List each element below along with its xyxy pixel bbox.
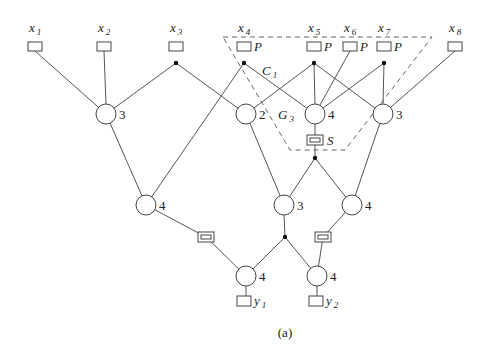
- edge-line: [106, 63, 176, 114]
- input-node-x6: [343, 42, 357, 51]
- input-node-x3: [169, 42, 183, 51]
- input-label-x5: x5: [307, 20, 321, 37]
- edge-line: [315, 63, 384, 114]
- edge-line: [383, 63, 384, 104]
- gate-label-g9: 4: [330, 269, 337, 284]
- gate-label-g6: 3: [297, 198, 304, 213]
- gate-node-g3: [305, 104, 325, 124]
- fanout-dot: [283, 235, 287, 239]
- delay-box-inner-d2: [318, 235, 328, 239]
- input-label-x7: x7: [377, 20, 391, 37]
- input-label-x4: x4: [237, 20, 251, 37]
- gate-name-g3: G3: [278, 107, 294, 124]
- fanout-dot: [242, 61, 246, 65]
- gate-node-g5: [136, 195, 156, 215]
- region-label: C1: [262, 63, 277, 80]
- gate-label-g1: 3: [119, 107, 126, 122]
- input-node-x8: [448, 42, 462, 51]
- gate-node-g4: [373, 104, 393, 124]
- fanout-dot: [382, 61, 386, 65]
- gate-node-g6: [274, 195, 294, 215]
- circuit-diagram: C1x1x2x3x4Px5Px6Px7Px8324G3343444Sy1y2 (…: [0, 0, 488, 350]
- output-label-y2: y2: [324, 293, 339, 310]
- input-node-x7: [377, 42, 391, 51]
- fanout-dot: [174, 61, 178, 65]
- input-label-x3: x3: [169, 20, 183, 37]
- gate-node-g9: [307, 266, 327, 286]
- delay-box-inner-S: [310, 138, 320, 142]
- gate-label-g7: 4: [365, 198, 372, 213]
- tag-label-x6: P: [359, 39, 368, 54]
- input-label-x8: x8: [448, 20, 462, 37]
- edge-line: [176, 63, 246, 114]
- input-node-x1: [28, 42, 42, 51]
- input-label-x6: x6: [343, 20, 357, 37]
- edge-line: [106, 114, 146, 205]
- tag-label-x7: P: [393, 39, 402, 54]
- edge-line: [383, 51, 455, 114]
- gate-label-g2: 2: [259, 107, 266, 122]
- input-label-x2: x2: [97, 20, 111, 37]
- figure-caption: (a): [278, 325, 292, 340]
- edge-line: [315, 51, 350, 114]
- gate-node-g7: [342, 195, 362, 215]
- edge-line: [104, 51, 106, 104]
- edge-line: [352, 114, 383, 205]
- delay-box-inner-d1: [201, 235, 211, 239]
- gate-node-g2: [236, 104, 256, 124]
- input-node-x4: [237, 42, 251, 51]
- gate-label-g8: 4: [259, 269, 266, 284]
- edge-line: [314, 63, 383, 114]
- gate-label-g3: 4: [328, 107, 335, 122]
- input-node-x5: [307, 42, 321, 51]
- edge-line: [246, 114, 284, 205]
- edge-line: [35, 51, 106, 114]
- input-node-x2: [97, 42, 111, 51]
- gate-node-g1: [96, 104, 116, 124]
- nodes: [28, 42, 462, 306]
- delay-label-S: S: [327, 133, 334, 148]
- tag-label-x4: P: [253, 39, 262, 54]
- gate-label-g5: 4: [159, 198, 166, 213]
- input-label-x1: x1: [28, 20, 41, 37]
- output-node-y2: [309, 296, 323, 306]
- gate-node-g8: [236, 266, 256, 286]
- gate-label-g4: 3: [396, 107, 403, 122]
- edge-line: [146, 63, 244, 205]
- fanout-dot: [313, 156, 317, 160]
- edge-line: [284, 215, 285, 237]
- tag-label-x5: P: [323, 39, 332, 54]
- edges: [35, 51, 455, 296]
- edge-line: [314, 63, 315, 104]
- output-node-y1: [237, 296, 251, 306]
- fanout-dot: [312, 61, 316, 65]
- output-label-y1: y1: [252, 293, 266, 310]
